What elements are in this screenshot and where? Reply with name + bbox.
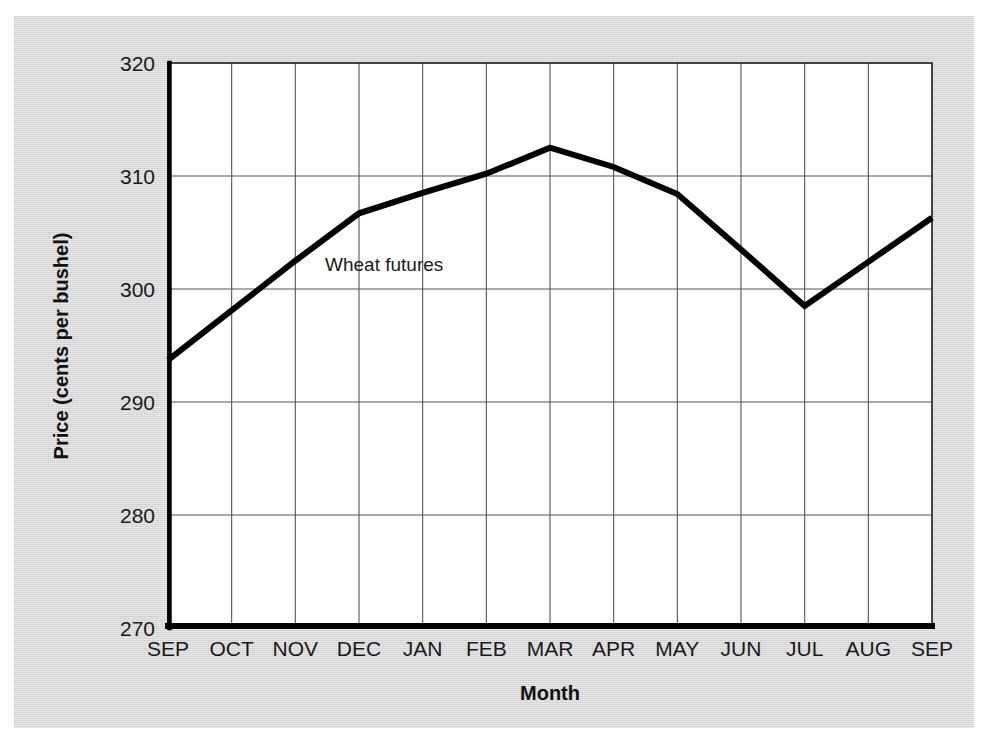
x-axis-tick-label: JUN	[721, 637, 762, 660]
x-axis-tick-label: JUL	[786, 637, 823, 660]
x-axis-tick-label: NOV	[273, 637, 319, 660]
x-axis-title: Month	[520, 682, 580, 704]
x-axis-tick-label: DEC	[337, 637, 381, 660]
y-axis-tick-label: 320	[120, 52, 155, 75]
x-axis-tick-labels: SEPOCTNOVDECJANFEBMARAPRMAYJUNJULAUGSEP	[147, 637, 953, 660]
x-axis-tick-label: SEP	[147, 637, 189, 660]
x-axis-tick-label: APR	[592, 637, 635, 660]
y-axis-tick-label: 280	[120, 504, 155, 527]
series-annotation-label: Wheat futures	[325, 254, 443, 275]
y-axis-tick-labels: 270280290300310320	[120, 52, 155, 640]
x-axis-tick-label: FEB	[466, 637, 507, 660]
x-axis-tick-label: JAN	[403, 637, 443, 660]
figure-container: 270280290300310320 SEPOCTNOVDECJANFEBMAR…	[0, 0, 988, 753]
x-axis-tick-label: SEP	[911, 637, 953, 660]
line-chart: 270280290300310320 SEPOCTNOVDECJANFEBMAR…	[0, 0, 988, 753]
y-axis-tick-label: 310	[120, 165, 155, 188]
x-axis-tick-label: AUG	[846, 637, 892, 660]
y-axis-title: Price (cents per bushel)	[50, 233, 72, 460]
x-axis-tick-label: MAR	[527, 637, 574, 660]
x-axis-tick-label: MAY	[655, 637, 699, 660]
x-axis-tick-label: OCT	[210, 637, 255, 660]
y-axis-tick-label: 290	[120, 391, 155, 414]
y-axis-tick-label: 300	[120, 278, 155, 301]
